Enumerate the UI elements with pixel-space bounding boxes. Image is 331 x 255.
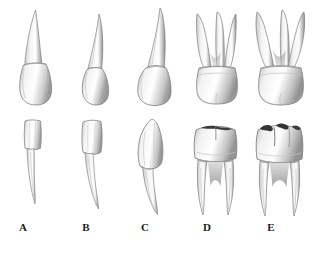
tooth-anatomy-figure: A B C D E [0,0,331,255]
tooth-illustration-lower-e [248,114,312,218]
tooth-illustration-lower-d [186,116,246,218]
column-label-row: A B C D E [0,220,331,244]
column-label-c: C [133,220,157,234]
column-label-e: E [259,220,283,234]
tooth-illustration-upper-d [186,8,248,108]
column-label-a: A [11,220,35,234]
tooth-illustration-lower-b [70,118,122,216]
column-label-d: D [195,220,219,234]
tooth-illustration-lower-a [12,118,60,214]
tooth-illustration-upper-e [248,4,314,108]
tooth-illustration-upper-c [126,6,184,110]
tooth-illustration-upper-a [8,8,66,108]
tooth-illustration-lower-c [126,116,182,218]
column-label-b: B [74,220,98,234]
tooth-illustration-upper-b [68,12,122,108]
